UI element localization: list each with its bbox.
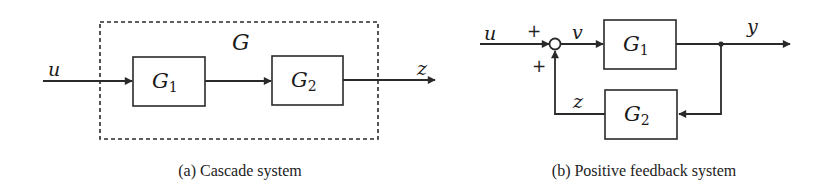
feedback-output-label: y (746, 15, 758, 37)
sum-output-label: v (572, 21, 583, 43)
summing-junction (550, 39, 561, 50)
cascade-block-g1-label: G1 (152, 69, 178, 95)
feedback-panel: u + + v G1 y G2 z (b) Positive feedback … (480, 15, 790, 180)
feedback-signal-label: z (572, 90, 584, 112)
sum-sign-bottom: + (532, 56, 546, 76)
sum-sign-top: + (527, 21, 541, 41)
diagram-canvas: G u G1 G2 z (a) Cascade system u + + v G… (0, 0, 827, 193)
feedback-block-g2-label: G2 (624, 102, 650, 128)
feedback-return-path (679, 44, 721, 114)
feedback-input-label: u (484, 22, 496, 44)
cascade-group-label: G (232, 30, 250, 55)
cascade-block-g2-label: G2 (291, 68, 317, 94)
cascade-panel: G u G1 G2 z (a) Cascade system (43, 22, 435, 180)
feedback-caption: (b) Positive feedback system (552, 162, 737, 180)
cascade-input-label: u (48, 58, 60, 80)
feedback-block-g1-label: G1 (623, 32, 649, 58)
cascade-output-label: z (416, 57, 428, 79)
cascade-caption: (a) Cascade system (178, 162, 302, 180)
